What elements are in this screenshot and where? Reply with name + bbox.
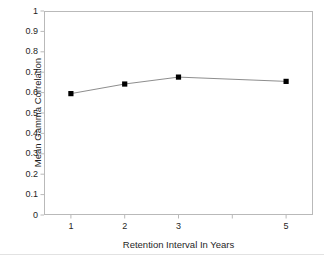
scan-artifact-line <box>0 254 324 255</box>
y-tick-label: 1 <box>2 7 38 16</box>
x-axis-tick-labels: 1235 <box>0 222 324 236</box>
x-tick-label: 2 <box>110 222 140 231</box>
plot-area <box>44 11 313 215</box>
y-axis-title: Mean Gamma Correlation <box>32 23 43 203</box>
x-axis-ticks <box>71 215 286 219</box>
x-tick-label: 5 <box>271 222 301 231</box>
x-tick-label: 1 <box>56 222 86 231</box>
x-tick-label: 3 <box>164 222 194 231</box>
x-axis-title: Retention Interval In Years <box>44 239 313 250</box>
chart-figure: 00.10.20.30.40.50.60.70.80.91 1235 Reten… <box>0 0 324 257</box>
y-tick-label: 0 <box>2 211 38 220</box>
